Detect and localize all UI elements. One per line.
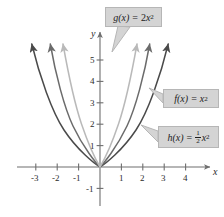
y-tick-label-3: 3 [90,99,95,108]
x-tick-label--3: -3 [31,174,39,183]
callout-tail-g [112,26,130,52]
callout-h-frac-denominator: 2 [195,137,201,145]
callout-tails [112,26,163,142]
x-tick-label-2: 2 [140,174,145,183]
callout-f-eq: = [191,93,197,104]
y-tick-label-2: 2 [90,120,95,129]
x-tick-label--2: -2 [52,174,60,183]
x-tick-label-3: 3 [161,174,166,183]
y-tick-label-5: 5 [90,56,95,65]
callout-h-eq: = [187,132,193,143]
y-tick-label-4: 4 [90,77,95,86]
y-axis [97,32,104,206]
x-axis-label: x [213,167,217,177]
x-tick-label--1: -1 [73,174,81,183]
y-tick-label--1: -1 [86,185,94,194]
x-tick-label-1: 1 [119,174,124,183]
x-tick-label-4: 4 [183,174,188,183]
callout-h-fraction: 12 [195,130,201,145]
callout-h-fn: h(x) [167,132,183,143]
plot-area [0,0,224,217]
y-axis-label: y [91,29,95,39]
callout-f: f(x)=x2 [163,89,219,108]
callout-h-frac-numerator: 1 [195,130,201,137]
callout-h: h(x)=12x2 [158,126,219,148]
callout-tail-h [141,125,158,142]
x-axis [17,164,210,171]
callout-g-eq: = [132,12,138,23]
quadratic-graph-figure: -3 -2 -1 1 2 3 4 -1 1 2 3 4 5 x y g(x)=2… [0,0,224,217]
callout-g-fn: g(x) [113,12,129,23]
callout-g: g(x)=2x2 [105,7,162,27]
callout-f-fn: f(x) [174,93,188,104]
y-tick-label-1: 1 [90,142,95,151]
